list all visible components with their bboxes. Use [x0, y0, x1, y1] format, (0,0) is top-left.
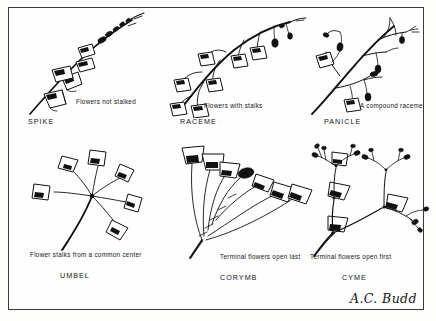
title-cyme: CYME	[342, 273, 367, 282]
title-raceme: RACEME	[180, 117, 217, 126]
caption-raceme: Flowers with stalks	[204, 102, 263, 109]
caption-umbel: Flower stalks from a common center	[30, 251, 142, 258]
panel-corymb: Terminal flowers open last CORYMB	[178, 140, 318, 290]
caption-corymb: Terminal flowers open last	[220, 253, 301, 260]
umbel-inflorescence-icon	[16, 140, 176, 260]
panel-spike: Flowers not stalked SPIKE	[16, 10, 166, 132]
title-corymb: CORYMB	[220, 273, 257, 282]
caption-spike: Flowers not stalked	[76, 98, 136, 105]
caption-panicle: A compound raceme	[360, 102, 423, 109]
title-spike: SPIKE	[28, 117, 54, 126]
inflorescence-diagram-plate: Flowers not stalked SPIKE	[0, 0, 436, 321]
cyme-inflorescence-icon	[306, 140, 432, 260]
panel-panicle: A compound raceme PANICLE	[306, 10, 430, 132]
panel-umbel: Flower stalks from a common center UMBEL	[16, 140, 176, 290]
title-umbel: UMBEL	[60, 271, 90, 280]
title-panicle: PANICLE	[324, 117, 361, 126]
panel-cyme: Terminal flowers open first CYME	[306, 140, 432, 290]
panel-raceme: Flowers with stalks RACEME	[168, 10, 318, 132]
caption-cyme: Terminal flowers open first	[310, 253, 391, 260]
artist-signature: A.C. Budd	[350, 291, 417, 306]
corymb-inflorescence-icon	[178, 140, 318, 260]
